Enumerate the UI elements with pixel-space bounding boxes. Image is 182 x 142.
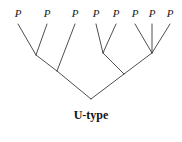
branch-node-12 (36, 55, 57, 71)
leaf-label-4: P (93, 8, 100, 19)
branch-node-45 (103, 53, 124, 74)
branch-leaf-5 (103, 24, 116, 53)
branch-leaf-2 (36, 24, 47, 55)
leaf-label-2: P (44, 8, 51, 19)
branch-leaf-8 (152, 24, 170, 53)
phylogenetic-tree-figure: P P P P P P P P U-type (0, 0, 182, 142)
tree-type-caption: U-type (74, 109, 109, 122)
branch-leaf-6 (135, 24, 152, 53)
leaf-label-5: P (113, 8, 120, 19)
leaf-label-8: P (167, 8, 174, 19)
leaf-label-3: P (72, 8, 79, 19)
branch-root-right (91, 74, 124, 99)
branch-root-left (57, 71, 91, 99)
leaf-label-1: P (15, 8, 22, 19)
branch-leaf-4 (96, 24, 103, 53)
branch-leaf-1 (18, 24, 36, 55)
branch-leaf-3 (57, 24, 75, 71)
tree-branches (18, 24, 170, 99)
leaf-label-6: P (132, 8, 139, 19)
branch-node-678 (124, 53, 152, 74)
leaf-label-7: P (149, 8, 156, 19)
